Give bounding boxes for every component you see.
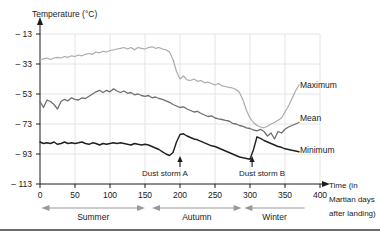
y-tick-label: – 33 [15,59,32,69]
series-line-minimum [40,134,299,160]
x-tick-label: 400 [313,190,327,200]
x-tick-label: 300 [243,190,257,200]
y-tick-label: – 73 [15,119,32,129]
y-axis-title: Temperature (°C) [32,9,97,19]
series-label-mean: Mean [300,113,322,123]
y-tick-label: – 113 [11,179,32,189]
dust-storm-annotations: Dust storm ADust storm B [142,156,285,178]
dust-storm-arrowhead-icon [177,156,182,162]
x-tick-label: 150 [138,190,152,200]
y-tick-label: – 13 [15,29,32,39]
x-axis-title-line2: Martian days [329,195,375,204]
series-line-mean [40,89,299,139]
x-tick-label: 200 [173,190,187,200]
season-label-summer: Summer [77,212,109,222]
season-arrowhead-right-icon [137,205,145,211]
season-label-winter: Winter [262,212,287,222]
x-axis-title-line1: Time (in [329,181,358,190]
season-arrowhead-left-icon [152,205,160,211]
season-ranges: SummerAutumnWinter [41,205,304,222]
temperature-chart: 050100150200250300350400– 13– 33– 53– 73… [0,0,380,234]
x-tick-label: 250 [208,190,222,200]
x-tick-label: 0 [38,190,43,200]
dust-storm-label: Dust storm B [239,169,285,178]
y-tick-label: – 93 [15,149,32,159]
season-arrowhead-right-icon [234,205,242,211]
x-tick-label: 50 [70,190,80,200]
season-label-autumn: Autumn [182,212,212,222]
series-label-minimum: Minimum [300,145,334,155]
season-arrowhead-left-icon [41,205,49,211]
x-tick-label: 100 [103,190,117,200]
x-axis-title-line3: after landing) [329,209,376,218]
dust-storm-label: Dust storm A [142,169,188,178]
y-tick-label: – 53 [15,89,32,99]
series-line-maximum [40,47,299,128]
x-tick-label: 350 [278,190,292,200]
season-arrowhead-left-icon [244,205,252,211]
mars-temperature-figure: 050100150200250300350400– 13– 33– 53– 73… [0,0,380,234]
series-label-maximum: Maximum [300,80,337,90]
